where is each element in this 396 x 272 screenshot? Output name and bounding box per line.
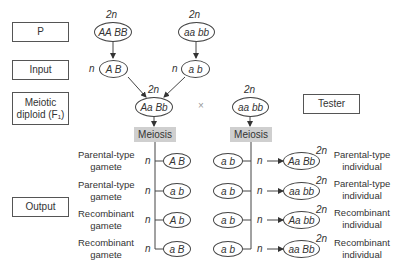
ploidy-parent-right: 2n (189, 9, 200, 20)
row-label-meiotic-line2: diploid (F₁) (17, 109, 65, 121)
row-label-input: Input (12, 60, 69, 80)
row-label-meiotic-line1: Meiotic (25, 97, 57, 109)
ploidy-tester-gamete-1: n (257, 185, 263, 196)
progeny-0: Aa Bb (283, 152, 320, 170)
meiosis-left: Meiosis (134, 127, 176, 142)
ploidy-tester: 2n (244, 84, 255, 95)
gamete-label-0: Parental-typegamete (78, 149, 134, 173)
cross-symbol: × (198, 100, 204, 111)
row-label-tester-text: Tester (318, 98, 345, 110)
gamete-3: a B (163, 241, 191, 257)
gamete-0: A B (163, 153, 191, 169)
row-label-meiotic-diploid: Meiotic diploid (F₁) (12, 92, 69, 125)
parent-right-genotype: aa bb (178, 22, 215, 42)
progeny-1: aa bb (283, 182, 320, 200)
tester-genotype: aa bb (232, 97, 269, 117)
gamete-label-3: Recombinantgamete (78, 237, 134, 261)
ploidy-progeny-3: 2n (316, 233, 327, 244)
progeny-2: Aa bb (283, 211, 320, 229)
progeny-label-2: Recombinantindividual (330, 207, 394, 231)
gamete-label-1: Parental-typegamete (78, 179, 134, 203)
progeny-label-1: Parental-typeindividual (330, 178, 394, 202)
ploidy-tester-gamete-0: n (257, 155, 263, 166)
ploidy-input-right: n (172, 63, 178, 74)
row-label-p-text: P (37, 26, 44, 38)
ploidy-progeny-1: 2n (316, 175, 327, 186)
row-label-tester: Tester (303, 94, 360, 114)
gamete-2: A b (163, 212, 191, 228)
parent-left-genotype: AA BB (94, 22, 132, 42)
progeny-label-3: Recombinantindividual (330, 237, 394, 261)
tester-gamete-2: a b (213, 212, 243, 228)
progeny-3: aa Bb (283, 240, 320, 258)
ploidy-f1: 2n (148, 84, 159, 95)
row-label-output: Output (12, 197, 69, 217)
ploidy-tester-gamete-3: n (257, 243, 263, 254)
ploidy-progeny-0: 2n (316, 145, 327, 156)
ploidy-gamete-0: n (145, 155, 151, 166)
ploidy-progeny-2: 2n (316, 204, 327, 215)
progeny-label-0: Parental-typeindividual (330, 149, 394, 173)
ploidy-gamete-1: n (145, 185, 151, 196)
f1-genotype: Aa Bb (135, 97, 173, 117)
input-left-genotype: A B (99, 60, 128, 78)
ploidy-parent-left: 2n (106, 9, 117, 20)
gamete-1: a b (163, 183, 191, 199)
ploidy-tester-gamete-2: n (257, 214, 263, 225)
gamete-label-2: Recombinantgamete (78, 208, 134, 232)
row-label-input-text: Input (29, 64, 51, 76)
row-label-p: P (12, 22, 69, 42)
tester-gamete-0: a b (213, 153, 243, 169)
meiosis-right: Meiosis (230, 127, 272, 142)
tester-gamete-3: a b (213, 241, 243, 257)
ploidy-input-left: n (89, 63, 95, 74)
ploidy-gamete-3: n (145, 243, 151, 254)
tester-gamete-1: a b (213, 183, 243, 199)
input-right-genotype: a b (181, 60, 210, 78)
ploidy-gamete-2: n (145, 214, 151, 225)
row-label-output-text: Output (25, 201, 55, 213)
